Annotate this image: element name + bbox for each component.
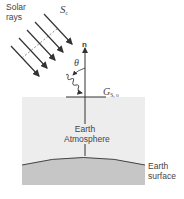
angle-arc bbox=[73, 68, 85, 75]
irradiation-subscript: S, o bbox=[110, 92, 119, 98]
atmosphere-label-line1: Earth bbox=[64, 124, 106, 134]
wavefront-dash bbox=[22, 28, 58, 58]
solar-constant-subscript: c bbox=[66, 10, 68, 16]
surface-label: Earth surface bbox=[148, 161, 176, 181]
irradiation-label: GS, o bbox=[103, 87, 119, 100]
surface-label-line2: surface bbox=[148, 171, 176, 181]
solar-constant-label: Sc bbox=[60, 4, 68, 18]
atmosphere-label-line2: Atmosphere bbox=[64, 134, 106, 144]
solar-rays-text: Solar rays bbox=[6, 2, 32, 22]
theta-label: θ bbox=[74, 58, 79, 68]
solar-rays bbox=[11, 14, 72, 76]
wavy-ray bbox=[66, 74, 82, 93]
surface-label-line1: Earth bbox=[148, 161, 176, 171]
atmosphere-label: Earth Atmosphere bbox=[64, 124, 106, 144]
normal-label: n bbox=[82, 40, 87, 50]
solar-rays-label: Solar rays bbox=[6, 2, 32, 22]
